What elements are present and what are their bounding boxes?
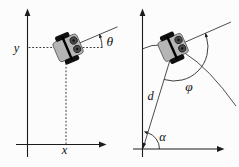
y-axis-arrowhead-icon	[25, 9, 31, 17]
horizontal-axis-arrowhead-icon	[217, 146, 225, 152]
x-axis-label: x	[61, 143, 68, 157]
distance-line-arrowhead-icon	[143, 143, 147, 149]
robot-right	[155, 28, 191, 66]
trajectory-curve	[142, 45, 236, 106]
left-panel: y x θ	[12, 9, 118, 158]
phi-label: φ	[185, 79, 193, 94]
pose-diagram: y x θ d	[0, 0, 239, 167]
y-axis-label: y	[12, 41, 20, 55]
distance-label: d	[147, 89, 154, 103]
vertical-axis-arrowhead-icon	[140, 9, 146, 17]
theta-label: θ	[107, 34, 114, 49]
x-axis-arrowhead-icon	[99, 142, 107, 148]
alpha-angle-arc	[148, 133, 160, 149]
right-panel: d φ α	[133, 9, 236, 158]
figure-canvas: y x θ d	[0, 0, 239, 167]
robot-left	[50, 29, 86, 67]
theta-angle-arc	[101, 38, 102, 48]
alpha-label: α	[159, 130, 166, 144]
phi-arc-arrowhead-icon	[205, 33, 208, 38]
